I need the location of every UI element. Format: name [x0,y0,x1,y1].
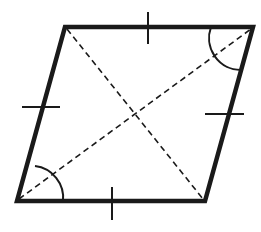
rhombus-diagram [0,0,261,232]
